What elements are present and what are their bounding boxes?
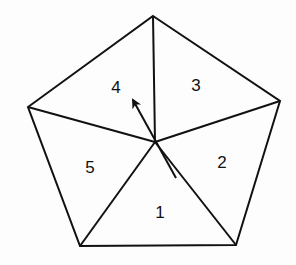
region-label-4: 4 [111, 78, 120, 98]
spokes [28, 16, 280, 246]
pentagon-svg [0, 0, 296, 265]
region-label-1: 1 [155, 203, 164, 223]
region-label-3: 3 [191, 76, 200, 96]
region-label-5: 5 [85, 158, 94, 178]
pentagon-diagram: 1 2 3 4 5 [0, 0, 296, 265]
region-label-2: 2 [217, 153, 226, 173]
